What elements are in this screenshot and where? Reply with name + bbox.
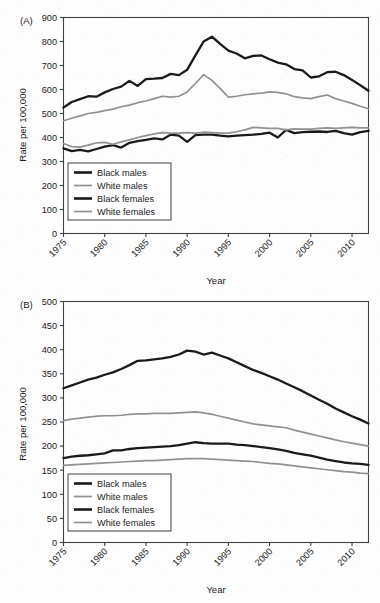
panel-b-canvas: 0501001502002503003504004505001975198019… <box>0 296 380 603</box>
y-tick-label: 700 <box>42 61 57 71</box>
y-tick-label: 400 <box>42 133 57 143</box>
x-tick-label: 1990 <box>171 237 193 259</box>
y-tick-label: 100 <box>42 490 57 500</box>
legend-label-white-males: White males <box>97 181 148 191</box>
x-tick-label: 1985 <box>129 237 151 259</box>
y-tick-label: 150 <box>42 466 57 476</box>
series-line-white-females <box>64 127 369 147</box>
x-tick-label: 2005 <box>294 546 316 568</box>
y-tick-label: 500 <box>42 297 57 307</box>
x-tick-label: 1975 <box>47 546 69 568</box>
series-line-white-females <box>64 459 369 474</box>
y-tick-label: 800 <box>42 37 57 47</box>
x-axis-title: Year <box>206 584 225 595</box>
x-tick-label: 1995 <box>212 546 234 568</box>
legend-label-white-females: White females <box>97 518 156 528</box>
x-tick-label: 1980 <box>88 237 110 259</box>
y-tick-label: 200 <box>42 181 57 191</box>
x-tick-label: 1975 <box>47 237 69 259</box>
y-tick-label: 450 <box>42 321 57 331</box>
series-line-black-males <box>64 351 369 424</box>
y-tick-label: 100 <box>42 205 57 215</box>
panel-tag-a: (A) <box>20 15 33 26</box>
y-tick-label: 200 <box>42 441 57 451</box>
x-tick-label: 1980 <box>88 546 110 568</box>
y-tick-label: 400 <box>42 345 57 355</box>
y-axis-title: Rate per 100,000 <box>17 387 28 460</box>
panel-a-canvas: 0100200300400500600700800900197519801985… <box>0 0 380 300</box>
legend-label-black-females: Black females <box>97 505 155 515</box>
x-tick-label: 1990 <box>171 546 193 568</box>
chart-panel-a: 0100200300400500600700800900197519801985… <box>0 0 380 300</box>
y-tick-label: 900 <box>42 13 57 23</box>
series-line-black-females <box>64 442 369 465</box>
y-axis-title: Rate per 100,000 <box>17 88 28 161</box>
series-line-white-males <box>64 75 369 121</box>
x-tick-label: 2000 <box>253 546 275 568</box>
y-tick-label: 500 <box>42 109 57 119</box>
y-tick-label: 350 <box>42 369 57 379</box>
chart-panel-b: 0501001502002503003504004505001975198019… <box>0 296 380 603</box>
x-tick-label: 2010 <box>335 237 357 259</box>
x-axis-title: Year <box>206 275 225 286</box>
series-line-black-males <box>64 37 369 108</box>
series-line-white-males <box>64 412 369 446</box>
y-tick-label: 50 <box>47 514 57 524</box>
legend-label-black-males: Black males <box>97 168 147 178</box>
y-tick-label: 0 <box>52 538 57 548</box>
legend-label-white-females: White females <box>97 207 156 217</box>
legend-label-black-males: Black males <box>97 479 147 489</box>
y-tick-label: 600 <box>42 85 57 95</box>
x-tick-label: 2010 <box>335 546 357 568</box>
x-tick-label: 1995 <box>212 237 234 259</box>
y-tick-label: 250 <box>42 417 57 427</box>
x-tick-label: 2000 <box>253 237 275 259</box>
legend-label-black-females: Black females <box>97 194 155 204</box>
legend-label-white-males: White males <box>97 492 148 502</box>
y-tick-label: 0 <box>52 229 57 239</box>
y-tick-label: 300 <box>42 393 57 403</box>
y-tick-label: 300 <box>42 157 57 167</box>
x-tick-label: 2005 <box>294 237 316 259</box>
x-tick-label: 1985 <box>129 546 151 568</box>
panel-tag-b: (B) <box>20 299 33 310</box>
figure-root: 0100200300400500600700800900197519801985… <box>0 0 380 603</box>
